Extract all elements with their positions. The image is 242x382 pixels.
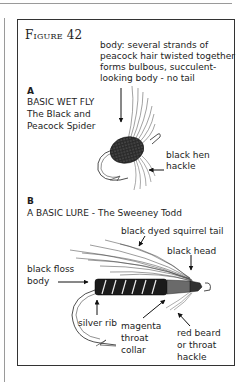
lure-drawing [58,236,210,346]
fly-illustrations [0,0,242,382]
wet-fly-drawing [98,86,164,190]
